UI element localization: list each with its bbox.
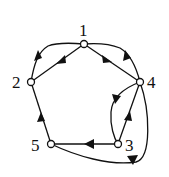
node-2 [28, 79, 35, 86]
node-4-label: 4 [147, 73, 156, 92]
directed-graph: 1 2 3 4 5 [0, 0, 169, 177]
arrow-1-to-4-icon [102, 55, 112, 63]
node-3 [115, 141, 122, 148]
arrow-5-to-4-icon [127, 155, 138, 165]
node-2-label: 2 [12, 73, 21, 92]
node-4 [137, 79, 144, 86]
edge-4-to-3 [111, 82, 140, 144]
arrow-3-to-4-icon [124, 111, 132, 121]
node-3-label: 3 [125, 136, 134, 155]
node-1-label: 1 [79, 21, 88, 40]
arrow-1-to-2-icon [56, 55, 66, 64]
edge-1-to-4 [84, 44, 140, 82]
arrow-5-to-2-icon [37, 112, 45, 122]
node-5-label: 5 [31, 136, 40, 155]
node-1 [81, 41, 88, 48]
node-5 [48, 141, 55, 148]
arrow-3-to-5-icon [84, 139, 94, 149]
